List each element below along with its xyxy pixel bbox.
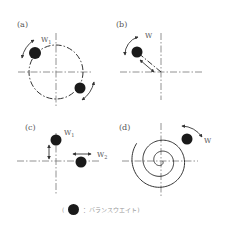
panel-b-weight-label: W <box>145 32 153 40</box>
panel-d-weight-label: W <box>204 137 212 145</box>
panel-a: (a) W1 <box>17 20 94 108</box>
legend: ( ：バランスウエイト) <box>62 203 140 215</box>
panel-a-weight-1 <box>29 47 41 59</box>
panel-c-weight-1 <box>51 135 62 146</box>
panel-d: (d) W <box>119 123 212 198</box>
balance-weight-diagram: (a) W1 (b) W (c) W1 W2 (d) <box>0 0 226 229</box>
panel-c-weight-2-label: W2 <box>97 151 107 160</box>
balance-weight-dot-icon <box>68 204 79 215</box>
panel-d-weight <box>182 134 193 145</box>
panel-b-weight <box>132 47 143 58</box>
panel-a-weight-label: W1 <box>41 36 51 45</box>
panel-d-label: (d) <box>119 123 130 132</box>
legend-open-paren: ( <box>62 206 64 213</box>
panel-b-radial-arrow <box>140 60 154 72</box>
panel-c-weight-2 <box>76 157 87 168</box>
panel-d-spiral-path <box>132 140 185 187</box>
panel-a-weight-2 <box>75 83 86 94</box>
legend-text: ：バランスウエイト) <box>83 205 139 214</box>
panel-b: (b) W <box>116 20 202 100</box>
panel-c-label: (c) <box>25 123 36 132</box>
panel-c-weight-1-label: W1 <box>64 129 74 138</box>
panel-c: (c) W1 W2 <box>17 123 107 195</box>
panel-a-label: (a) <box>17 20 28 29</box>
panel-b-label: (b) <box>116 20 127 29</box>
